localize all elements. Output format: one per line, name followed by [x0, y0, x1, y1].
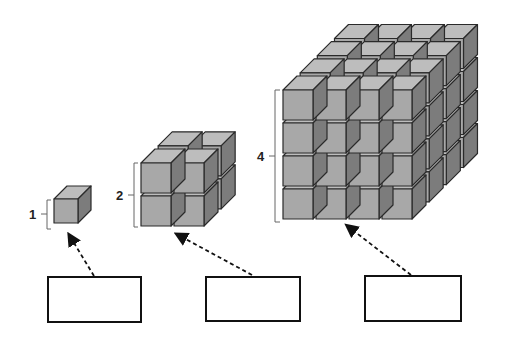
arrow-box-2-to-cube-2 [180, 236, 252, 275]
side-length-label-1: 1 [29, 207, 36, 222]
arrow-box-1-to-cube-1 [71, 238, 94, 276]
answer-box-1[interactable] [47, 276, 142, 323]
answer-box-3[interactable] [364, 275, 462, 322]
cube-side-2 [141, 132, 235, 226]
bracket-side-1: 1 [29, 200, 51, 229]
side-length-label-2: 2 [116, 188, 123, 203]
arrow-box-3-to-cube-4 [350, 228, 411, 275]
bracket-side-4: 4 [257, 90, 280, 222]
cube-side-4 [283, 25, 477, 219]
answer-box-2[interactable] [205, 276, 301, 322]
cube-side-1 [54, 186, 91, 223]
bracket-side-2: 2 [116, 163, 138, 227]
side-length-label-4: 4 [257, 149, 265, 164]
